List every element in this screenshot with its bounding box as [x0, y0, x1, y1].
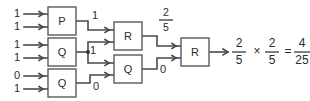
- final-output-wire-group: [209, 49, 228, 55]
- label-r1-out-denominator: 5: [163, 21, 169, 33]
- logic-circuit-diagram: P Q Q R Q R 1 1 1 1 0 1: [0, 0, 310, 101]
- label-q3-out: 0: [160, 63, 166, 75]
- equation-term-1-denominator: 5: [236, 53, 243, 67]
- input-q2-a-label: 0: [14, 69, 20, 81]
- gate-p-1[interactable]: P: [48, 7, 76, 35]
- input-q2-b-label: 1: [14, 82, 20, 94]
- equation-term-2-numerator: 2: [269, 36, 276, 50]
- label-r1-out-fraction: 2 5: [159, 6, 173, 33]
- gate-p-1-label: P: [58, 15, 65, 27]
- wire-r1-to-r2: [142, 36, 176, 46]
- equation-equals-symbol: =: [284, 44, 291, 58]
- input-q1-a-label: 1: [14, 38, 20, 50]
- circuit-canvas: P Q Q R Q R 1 1 1 1 0 1: [0, 0, 310, 101]
- equation-term-2-denominator: 5: [269, 53, 276, 67]
- gate-r-1-label: R: [124, 30, 132, 42]
- label-r1-out-numerator: 2: [163, 6, 169, 18]
- gate-r-1[interactable]: R: [114, 22, 142, 50]
- gate-q-2[interactable]: Q: [48, 69, 76, 97]
- gate-r-2[interactable]: R: [181, 38, 209, 66]
- equation-term-1-numerator: 2: [236, 36, 243, 50]
- gate-q-1-label: Q: [58, 46, 67, 58]
- final-equation: 2 5 × 2 5 = 4 25: [232, 36, 310, 67]
- input-p1-a-label: 1: [14, 7, 20, 19]
- label-q2-out: 0: [93, 80, 99, 92]
- gate-r-2-label: R: [191, 46, 199, 58]
- gate-q-3-label: Q: [124, 63, 133, 75]
- wire-p1-to-r1: [76, 21, 109, 30]
- input-value-labels: 1 1 1 1 0 1: [14, 7, 20, 94]
- equation-result-denominator: 25: [295, 53, 309, 67]
- input-wires-group: [24, 12, 48, 92]
- gate-q-2-label: Q: [58, 77, 67, 89]
- gate-q-3[interactable]: Q: [114, 55, 142, 83]
- equation-result-numerator: 4: [299, 36, 306, 50]
- gate-q-1[interactable]: Q: [48, 38, 76, 66]
- label-q1-out: 1: [90, 44, 96, 56]
- label-p1-out: 1: [92, 9, 98, 21]
- input-q1-b-label: 1: [14, 51, 20, 63]
- equation-multiply-symbol: ×: [253, 44, 260, 58]
- input-p1-b-label: 1: [14, 20, 20, 32]
